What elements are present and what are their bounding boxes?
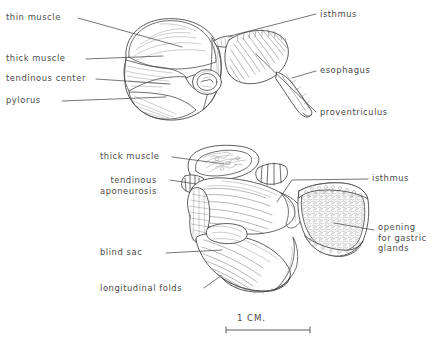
label-isthmus-upper: isthmus <box>320 9 357 20</box>
lower-sectioned-view <box>182 145 369 293</box>
label-tendinous-aponeurosis: tendinous aponeurosis <box>100 175 157 196</box>
label-thick-muscle: thick muscle <box>6 53 66 64</box>
label-proventriculus: proventriculus <box>320 107 388 118</box>
label-opening-for-gastric-glands: opening for gastric glands <box>378 222 427 254</box>
label-tendinous-center: tendinous center <box>6 73 86 84</box>
anatomical-figure: .o { fill:#fff; stroke:#4a4a4a; stroke-w… <box>0 0 442 338</box>
label-thin-muscle: thin muscle <box>6 12 61 23</box>
label-blind-sac: blind sac <box>100 247 142 258</box>
scale-bar-label: 1 CM. <box>237 313 266 323</box>
label-longitudinal-folds: longitudinal folds <box>100 283 182 294</box>
label-thick-muscle-lower: thick muscle <box>100 151 160 162</box>
label-isthmus-lower: isthmus <box>372 173 409 184</box>
label-pylorus: pylorus <box>6 95 41 106</box>
label-esophagus: esophagus <box>320 65 370 76</box>
scale-bar <box>224 325 314 335</box>
upper-gizzard-view <box>124 19 312 120</box>
